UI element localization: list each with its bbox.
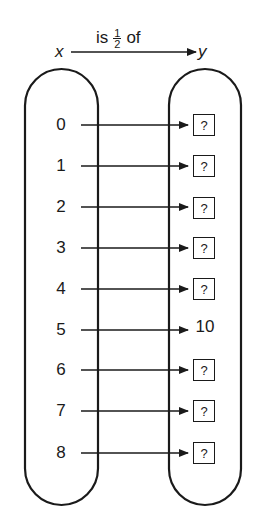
x-value: 7 [48, 401, 74, 421]
x-value: 4 [48, 279, 74, 299]
domain-variable-label: x [55, 42, 64, 62]
fraction-one-half: 1 2 [113, 28, 121, 49]
relation-prefix: is [96, 28, 108, 48]
x-value: 6 [48, 360, 74, 380]
x-value: 0 [48, 115, 74, 135]
unknown-answer-box[interactable]: ? [193, 114, 215, 136]
fraction-denominator: 2 [113, 39, 121, 49]
unknown-answer-box[interactable]: ? [193, 278, 215, 300]
codomain-variable-label: y [198, 42, 207, 62]
unknown-answer-box[interactable]: ? [193, 237, 215, 259]
known-y-value: 10 [191, 317, 219, 337]
x-value: 5 [48, 320, 74, 340]
relation-label: is 1 2 of [96, 26, 141, 50]
fraction-numerator: 1 [113, 28, 121, 39]
unknown-answer-box[interactable]: ? [193, 155, 215, 177]
x-value: 2 [48, 197, 74, 217]
unknown-answer-box[interactable]: ? [193, 442, 215, 464]
unknown-answer-box[interactable]: ? [193, 197, 215, 219]
unknown-answer-box[interactable]: ? [193, 359, 215, 381]
x-value: 8 [48, 443, 74, 463]
diagram-canvas [0, 0, 267, 529]
relation-suffix: of [126, 28, 140, 48]
x-value: 1 [48, 156, 74, 176]
x-value: 3 [48, 238, 74, 258]
unknown-answer-box[interactable]: ? [193, 400, 215, 422]
